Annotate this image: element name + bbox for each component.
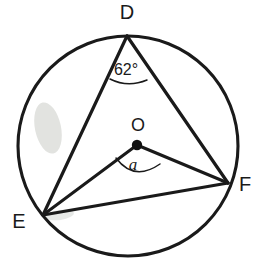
vertex-label-D: D (120, 1, 134, 23)
inscribed-angle-arc-at-D (110, 79, 147, 84)
geometry-canvas: 62° a O D E F (0, 0, 265, 265)
vertex-label-F: F (239, 173, 251, 195)
chord-EF (43, 183, 228, 215)
scan-smudge-left-icon (30, 100, 66, 156)
center-point-label: O (131, 115, 145, 135)
inscribed-angle-label: 62° (114, 61, 138, 78)
circle-geometry-diagram: 62° a O D E F (0, 0, 265, 265)
center-point-dot (132, 140, 142, 150)
vertex-label-E: E (12, 210, 25, 232)
central-angle-label: a (129, 155, 138, 174)
central-angle-arc-at-O (116, 158, 160, 172)
radius-OE (43, 145, 137, 215)
